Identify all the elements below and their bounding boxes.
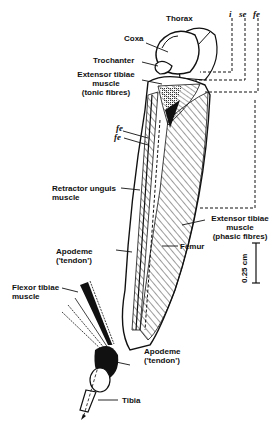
label-femur: Femur — [180, 242, 204, 251]
label-extensor-tonic-line3: (tonic fibres) — [70, 88, 142, 97]
nerve-label-se: se — [239, 10, 247, 19]
label-apodeme-upper-line1: Apodeme — [56, 247, 92, 256]
nerve-label-i: i — [229, 10, 232, 19]
label-thorax: Thorax — [166, 14, 193, 23]
label-tibia: Tibia — [122, 396, 141, 405]
label-coxa: Coxa — [124, 34, 144, 43]
label-retractor-line1: Retractor unguis — [52, 184, 116, 193]
label-trochanter: Trochanter — [93, 56, 134, 65]
leg-drawing — [0, 0, 278, 422]
label-flexor-line2: muscle — [12, 292, 59, 301]
flexor-tibiae-fibres — [62, 281, 114, 352]
label-extensor-tonic-line2: muscle — [70, 79, 142, 88]
label-flexor-line1: Flexor tibiae — [12, 283, 59, 292]
label-retractor-line2: muscle — [52, 193, 116, 202]
label-apodeme-lower: Apodeme ('tendon') — [144, 347, 180, 365]
label-fe-b: fe — [114, 133, 121, 142]
label-apodeme-upper-line2: ('tendon') — [56, 256, 92, 265]
label-apodeme-lower-line2: ('tendon') — [144, 356, 180, 365]
label-extensor-phasic-line1: Extensor tibiae — [204, 214, 276, 223]
label-extensor-tonic-line1: Extensor tibiae — [70, 70, 142, 79]
nerve-label-fe: fe — [253, 10, 260, 19]
scale-bar — [252, 243, 260, 283]
joint-ball — [90, 368, 110, 392]
label-apodeme-upper: Apodeme ('tendon') — [56, 247, 92, 265]
label-flexor-tibiae: Flexor tibiae muscle — [12, 283, 59, 301]
scale-bar-label: 0.25 cm — [240, 254, 249, 283]
label-extensor-tonic: Extensor tibiae muscle (tonic fibres) — [70, 70, 142, 97]
label-extensor-phasic-line3: (phasic fibres) — [204, 232, 276, 241]
label-extensor-phasic: Extensor tibiae muscle (phasic fibres) — [204, 214, 276, 241]
label-apodeme-lower-line1: Apodeme — [144, 347, 180, 356]
label-retractor-unguis: Retractor unguis muscle — [52, 184, 116, 202]
label-extensor-phasic-line2: muscle — [204, 223, 276, 232]
